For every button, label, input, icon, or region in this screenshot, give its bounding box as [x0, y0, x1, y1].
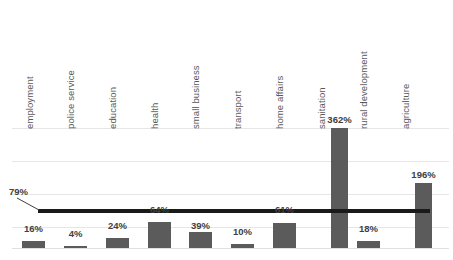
value-label-health: 64% — [139, 204, 180, 215]
plot-area: employment police service education heal… — [0, 0, 453, 260]
gridline-400 — [12, 128, 449, 129]
gridline-200 — [12, 194, 449, 195]
bar-home-affairs — [273, 223, 296, 248]
category-label-home-affairs: home affairs — [274, 76, 285, 129]
reference-line-79 — [38, 209, 430, 213]
category-label-employment: employment — [24, 76, 35, 129]
bar-chart: employment police service education heal… — [0, 0, 453, 260]
value-label-police-service: 4% — [55, 228, 96, 239]
value-label-transport: 10% — [222, 226, 263, 237]
bar-education — [106, 238, 129, 248]
bar-agriculture — [415, 183, 432, 248]
gridline-300 — [12, 161, 449, 162]
axis-baseline — [12, 248, 449, 249]
bar-sanitation — [331, 128, 348, 248]
category-label-education: education — [107, 87, 118, 129]
value-label-small-business: 39% — [180, 220, 221, 231]
bar-health — [148, 222, 171, 248]
category-label-health: health — [149, 103, 160, 129]
category-label-small-business: small business — [190, 65, 201, 129]
category-label-police-service: police service — [65, 70, 76, 129]
bar-police-service — [64, 246, 87, 248]
category-label-agriculture: agriculture — [400, 84, 411, 129]
reference-line-label: 79% — [9, 186, 28, 197]
bar-small-business — [189, 232, 212, 248]
reference-leader-line — [0, 0, 453, 260]
category-label-transport: transport — [232, 91, 243, 129]
value-label-employment: 16% — [13, 223, 54, 234]
bar-rural-development — [357, 241, 380, 248]
bar-employment — [22, 241, 45, 248]
value-label-education: 24% — [97, 220, 138, 231]
value-label-home-affairs: 61% — [264, 204, 305, 215]
value-label-sanitation: 362% — [319, 114, 360, 125]
value-label-rural-development: 18% — [348, 223, 389, 234]
value-label-agriculture: 196% — [403, 169, 444, 180]
bar-transport — [231, 244, 254, 248]
